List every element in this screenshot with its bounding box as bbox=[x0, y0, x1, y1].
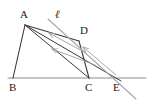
point-label-b: B bbox=[9, 82, 16, 93]
point-label-d: D bbox=[80, 25, 88, 36]
point-label-e: E bbox=[113, 82, 120, 93]
line-label-ell: ℓ bbox=[55, 9, 60, 20]
geometry-figure: ABCDEℓ bbox=[0, 0, 152, 104]
point-label-a: A bbox=[20, 9, 28, 20]
diag-AD bbox=[25, 25, 79, 41]
point-label-c: C bbox=[85, 82, 92, 93]
segments-layer bbox=[8, 19, 146, 99]
arrow-E-to-D bbox=[83, 47, 116, 75]
side-AB bbox=[13, 25, 25, 78]
